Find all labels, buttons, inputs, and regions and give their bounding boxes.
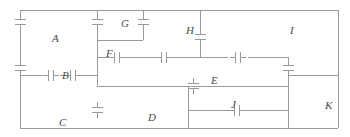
capacitor-cap-I bbox=[230, 52, 247, 63]
label-I: I bbox=[290, 25, 294, 36]
circuit-svg-canvas bbox=[0, 0, 350, 137]
capacitor-cap-F2 bbox=[156, 52, 173, 63]
capacitor-cap-H bbox=[195, 29, 206, 46]
label-K: K bbox=[325, 100, 332, 111]
capacitor-cap-K bbox=[283, 60, 294, 77]
label-A: A bbox=[52, 33, 59, 44]
circuit-diagram-figure: ABCDEFGHIJK bbox=[0, 0, 350, 137]
capacitors-group bbox=[15, 14, 294, 119]
capacitor-cap-G-right bbox=[138, 14, 149, 31]
label-H: H bbox=[186, 25, 194, 36]
label-F: F bbox=[106, 48, 113, 59]
label-D: D bbox=[148, 112, 156, 123]
capacitor-cap-D bbox=[92, 102, 103, 119]
label-E: E bbox=[211, 75, 218, 86]
capacitor-cap-G-left bbox=[92, 14, 103, 31]
label-G: G bbox=[121, 18, 129, 29]
capacitor-cap-B bbox=[43, 70, 60, 81]
label-B: B bbox=[62, 70, 69, 81]
label-C: C bbox=[59, 117, 66, 128]
label-J: J bbox=[231, 99, 236, 110]
capacitor-cap-A-upper bbox=[15, 14, 26, 31]
capacitor-cap-A-lower bbox=[15, 60, 26, 77]
